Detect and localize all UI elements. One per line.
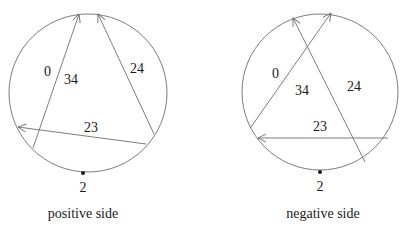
region-label-34: 34 (295, 83, 309, 98)
region-label-34: 34 (64, 72, 78, 87)
region-label-23: 23 (313, 119, 327, 134)
boundary-circle (242, 14, 398, 170)
caption-negative-side: negative side (286, 206, 359, 221)
basepoint-label: 2 (317, 179, 324, 194)
region-label-23: 23 (84, 120, 98, 135)
chord-diagram-figure: 0 34 24 23 2 positive side 0 34 24 23 2 … (0, 0, 405, 229)
boundary-circle (9, 14, 167, 172)
positive-side-diagram: 0 34 24 23 2 positive side (9, 14, 167, 221)
diagram-canvas: 0 34 24 23 2 positive side 0 34 24 23 2 … (0, 0, 405, 229)
basepoint-dot (81, 171, 85, 175)
region-label-24: 24 (347, 79, 361, 94)
negative-side-diagram: 0 34 24 23 2 negative side (242, 13, 398, 221)
chord-24-arrow (98, 14, 154, 134)
basepoint-dot (318, 170, 322, 174)
region-label-0: 0 (272, 66, 279, 81)
region-label-0: 0 (44, 64, 51, 79)
basepoint-label: 2 (80, 180, 87, 195)
caption-positive-side: positive side (48, 206, 118, 221)
region-label-24: 24 (130, 61, 144, 76)
